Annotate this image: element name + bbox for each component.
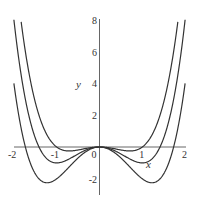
x-tick-label: 2 xyxy=(182,149,187,160)
axes xyxy=(14,19,186,195)
x-tick-label: 0 xyxy=(92,149,97,160)
y-tick-label: 2 xyxy=(92,110,97,121)
y-tick-label: 8 xyxy=(92,15,97,26)
plot-area: -2-1012 -22468 x y xyxy=(0,0,199,204)
y-tick-label: 4 xyxy=(92,78,97,89)
y-tick-label: -2 xyxy=(89,174,97,185)
x-tick-label: -2 xyxy=(8,149,16,160)
x-tick-labels: -2-1012 xyxy=(8,149,187,160)
y-tick-label: 6 xyxy=(92,47,97,58)
x-tick-label: -1 xyxy=(51,149,59,160)
y-axis-label: y xyxy=(75,78,81,90)
x-tick-label: 1 xyxy=(139,149,144,160)
